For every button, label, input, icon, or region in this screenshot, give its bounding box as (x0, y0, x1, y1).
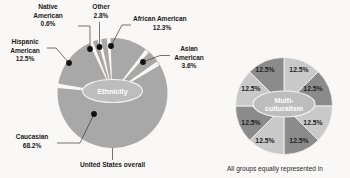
label-other-pct: 2.8% (84, 12, 118, 21)
label-african-american-line1: African American (133, 15, 199, 24)
left-pie-group: Ethnicity (47, 22, 170, 160)
label-caucasian-pct: 68.2% (8, 142, 56, 151)
right-pie-pct-1: 12.5% (286, 66, 312, 73)
right-pie-pct-8: 12.5% (252, 66, 278, 73)
label-caucasian-line1: Caucasian (8, 133, 56, 142)
label-native-american: Native American 0.6% (18, 3, 78, 29)
label-african-american-pct: 12.3% (133, 24, 191, 33)
right-pie-group: Multi- culturalism (236, 58, 333, 155)
label-african-american: African American 12.3% (133, 15, 199, 32)
left-chart-caption: United States overall (62, 161, 163, 168)
label-asian-american-line1: Asian (168, 45, 210, 54)
label-native-american-pct: 0.6% (18, 20, 78, 29)
label-native-american-line1: Native (18, 3, 78, 12)
figure-canvas: Ethnicity (0, 0, 350, 178)
label-asian-american: Asian American 3.6% (168, 45, 210, 71)
label-native-american-line2: American (18, 12, 78, 21)
right-pie-pct-3: 12.5% (300, 119, 326, 126)
right-chart-caption: All groups equally represented in (200, 165, 350, 172)
label-asian-american-line2: American (168, 54, 210, 63)
right-pie-pct-7: 12.5% (238, 85, 264, 92)
left-pie-center-label: Ethnicity (97, 87, 127, 96)
right-pie-center-label-line2: culturalism (265, 104, 303, 113)
right-pie-pct-4: 12.5% (286, 137, 312, 144)
right-pie-pct-2: 12.5% (300, 85, 326, 92)
label-hispanic-american-line1: Hispanic (3, 38, 47, 47)
label-hispanic-american: Hispanic American 12.5% (3, 38, 47, 64)
label-caucasian: Caucasian 68.2% (8, 133, 56, 150)
label-other-line1: Other (84, 3, 118, 12)
label-hispanic-american-line2: American (3, 47, 47, 56)
right-pie-pct-5: 12.5% (252, 137, 278, 144)
label-other: Other 2.8% (84, 3, 118, 20)
right-pie-pct-6: 12.5% (238, 119, 264, 126)
label-hispanic-american-pct: 12.5% (3, 55, 47, 64)
label-asian-american-pct: 3.6% (168, 62, 210, 71)
